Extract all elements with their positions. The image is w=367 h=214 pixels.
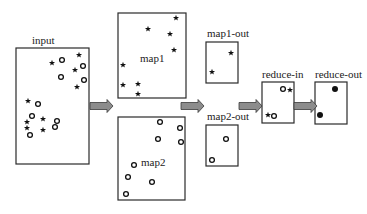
arrow-reduce-in-to-reduce-out (294, 100, 317, 113)
reduce-out-node: reduce-out (315, 68, 362, 124)
input-label: input (32, 34, 55, 46)
reduce-out-label: reduce-out (315, 68, 362, 80)
map2-out-label: map2-out (207, 110, 249, 122)
filled-dot-marker (317, 112, 323, 118)
filled-dot-marker (332, 86, 338, 92)
map1-label: map1 (140, 52, 164, 64)
input-box (16, 48, 89, 164)
map1-out-box (206, 42, 238, 83)
map2-node: map2 (118, 117, 185, 200)
reduce-in-label: reduce-in (262, 68, 304, 80)
mapreduce-diagram: input map1 map2 map1-out map2-out reduce… (0, 0, 367, 214)
map2-out-box (206, 125, 238, 166)
input-node: input (16, 34, 89, 164)
arrow-maps-to-outputs (181, 100, 204, 113)
arrow-input-to-maps (90, 100, 113, 113)
map1-node: map1 (118, 13, 186, 98)
map1-out-node: map1-out (206, 27, 249, 83)
reduce-in-node: reduce-in (262, 68, 304, 123)
map2-out-node: map2-out (206, 110, 249, 166)
map1-out-label: map1-out (207, 27, 249, 39)
map2-label: map2 (141, 156, 165, 168)
